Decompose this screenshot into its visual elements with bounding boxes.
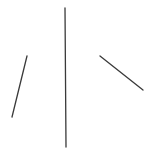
line-canvas [0, 0, 159, 153]
left-slanted-line [12, 56, 27, 117]
right-slanted-line [100, 56, 143, 90]
center-vertical-line [65, 8, 66, 147]
